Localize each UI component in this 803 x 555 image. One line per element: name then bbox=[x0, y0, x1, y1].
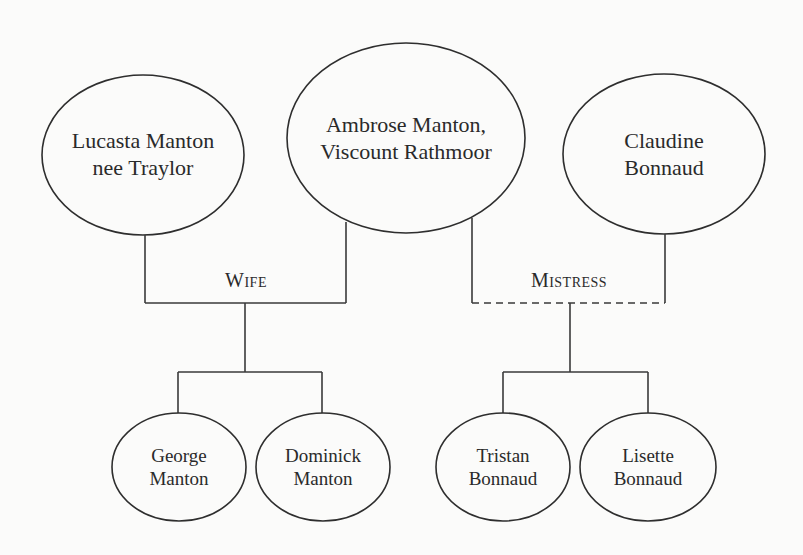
node-dominick-line-2: Manton bbox=[285, 467, 361, 490]
relationship-mistress-label: Mistress bbox=[531, 269, 607, 292]
node-tristan-line-1: Tristan bbox=[469, 444, 538, 467]
node-ambrose-label: Ambrose Manton, Viscount Rathmoor bbox=[320, 112, 492, 166]
node-claudine-line-1: Claudine bbox=[624, 128, 703, 155]
node-ambrose-line-2: Viscount Rathmoor bbox=[320, 139, 492, 166]
family-tree-diagram: Lucasta Manton nee Traylor Ambrose Manto… bbox=[0, 0, 803, 555]
node-lisette-line-1: Lisette bbox=[614, 444, 683, 467]
node-george-label: George Manton bbox=[149, 444, 208, 490]
node-dominick-label: Dominick Manton bbox=[285, 444, 361, 490]
node-lucasta-label: Lucasta Manton nee Traylor bbox=[72, 128, 214, 182]
node-tristan-line-2: Bonnaud bbox=[469, 467, 538, 490]
node-tristan-label: Tristan Bonnaud bbox=[469, 444, 538, 490]
node-claudine-label: Claudine Bonnaud bbox=[624, 128, 703, 182]
node-ambrose-line-1: Ambrose Manton, bbox=[320, 112, 492, 139]
relationship-wife-label: Wife bbox=[225, 269, 267, 292]
node-george-line-1: George bbox=[149, 444, 208, 467]
node-lisette-line-2: Bonnaud bbox=[614, 467, 683, 490]
node-dominick-line-1: Dominick bbox=[285, 444, 361, 467]
node-lucasta-line-2: nee Traylor bbox=[72, 155, 214, 182]
node-lisette-label: Lisette Bonnaud bbox=[614, 444, 683, 490]
node-george-line-2: Manton bbox=[149, 467, 208, 490]
node-lucasta-line-1: Lucasta Manton bbox=[72, 128, 214, 155]
node-claudine-line-2: Bonnaud bbox=[624, 155, 703, 182]
